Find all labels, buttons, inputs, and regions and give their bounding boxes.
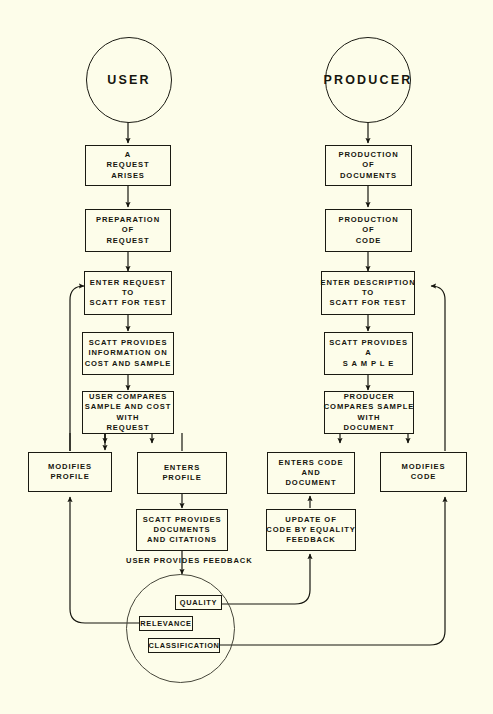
node-line: DOCUMENT [285, 478, 336, 488]
node-line: ARISES [111, 171, 145, 181]
node-line: SAMPLE AND COST [85, 402, 172, 412]
node-line: PRODUCTION [338, 150, 398, 160]
node-line: CODE [356, 236, 382, 246]
node-line: A [365, 348, 371, 358]
actor-user-label: USER [107, 73, 151, 87]
node-line: WITH [117, 413, 140, 423]
node-modifies-code[interactable]: MODIFIES CODE [380, 452, 467, 492]
node-line: OF [362, 225, 374, 235]
node-line: COST AND SAMPLE [85, 359, 172, 369]
node-line: PREPARATION [96, 215, 160, 225]
node-line: MODIFIES [48, 462, 92, 472]
node-line: TO [362, 288, 374, 298]
node-enters-profile[interactable]: ENTERS PROFILE [137, 452, 227, 494]
node-line: A [125, 150, 131, 160]
node-line: REQUEST [106, 423, 149, 433]
node-line: DOCUMENTS [153, 525, 210, 535]
feedback-item-relevance[interactable]: RELEVANCE [139, 616, 193, 631]
node-line: FEEDBACK [286, 535, 335, 545]
node-line: REQUEST [106, 160, 149, 170]
actor-producer: PRODUCER [325, 37, 411, 123]
node-line: DOCUMENT [343, 423, 394, 433]
node-line: INFORMATION ON [88, 348, 167, 358]
actor-user: USER [86, 37, 172, 123]
actor-producer-label: PRODUCER [323, 73, 412, 87]
node-line: ENTER REQUEST [90, 278, 166, 288]
node-line: OF [362, 160, 374, 170]
node-line: PROFILE [162, 473, 201, 483]
node-line: COMPARES SAMPLE [324, 402, 415, 412]
node-enters-code-and-document[interactable]: ENTERS CODE AND DOCUMENT [267, 452, 355, 494]
node-production-of-code[interactable]: PRODUCTION OF CODE [325, 209, 412, 252]
node-line: CODE [411, 472, 437, 482]
node-user-compares[interactable]: USER COMPARES SAMPLE AND COST WITH REQUE… [82, 391, 174, 434]
connector-layer [0, 0, 493, 714]
node-line: AND [301, 468, 320, 478]
node-line: UPDATE OF [285, 515, 336, 525]
node-line: REQUEST [106, 236, 149, 246]
node-line: TO [122, 288, 134, 298]
node-line: PRODUCER [344, 392, 395, 402]
node-producer-compares[interactable]: PRODUCER COMPARES SAMPLE WITH DOCUMENT [324, 391, 414, 434]
node-line: SCATT FOR TEST [329, 298, 406, 308]
node-scatt-provides-sample[interactable]: SCATT PROVIDES A S A M P L E [324, 332, 413, 375]
node-line: DOCUMENTS [340, 171, 397, 181]
node-request-arises[interactable]: A REQUEST ARISES [85, 145, 171, 186]
node-line: SCATT FOR TEST [89, 298, 166, 308]
feedback-caption: USER PROVIDES FEEDBACK [126, 556, 253, 565]
node-line: MODIFIES [402, 462, 446, 472]
node-line: PROFILE [50, 472, 89, 482]
node-line: USER COMPARES [89, 392, 167, 402]
node-line: CODE BY EQUALITY [266, 525, 355, 535]
node-line: SCATT PROVIDES [329, 338, 408, 348]
node-line: AND CITATIONS [147, 535, 217, 545]
node-scatt-provides-documents[interactable]: SCATT PROVIDES DOCUMENTS AND CITATIONS [136, 509, 228, 551]
node-preparation-of-request[interactable]: PREPARATION OF REQUEST [85, 209, 171, 252]
node-enter-description[interactable]: ENTER DESCRIPTION TO SCATT FOR TEST [321, 271, 415, 315]
feedback-item-classification[interactable]: CLASSIFICATION [148, 638, 220, 653]
node-line: S A M P L E [343, 359, 394, 369]
node-update-of-code[interactable]: UPDATE OF CODE BY EQUALITY FEEDBACK [266, 509, 356, 551]
node-line: SCATT PROVIDES [89, 338, 168, 348]
node-line: ENTER DESCRIPTION [320, 278, 415, 288]
node-line: OF [122, 225, 134, 235]
node-scatt-provides-information[interactable]: SCATT PROVIDES INFORMATION ON COST AND S… [82, 332, 174, 375]
node-enter-request[interactable]: ENTER REQUEST TO SCATT FOR TEST [84, 271, 172, 315]
feedback-item-quality[interactable]: QUALITY [175, 595, 222, 610]
feedback-item-label: RELEVANCE [140, 619, 191, 628]
node-line: ENTERS CODE [279, 458, 344, 468]
feedback-item-label: CLASSIFICATION [148, 641, 219, 650]
node-line: WITH [358, 413, 381, 423]
feedback-item-label: QUALITY [180, 598, 217, 607]
node-line: PRODUCTION [338, 215, 398, 225]
node-production-of-documents[interactable]: PRODUCTION OF DOCUMENTS [325, 145, 412, 186]
node-modifies-profile[interactable]: MODIFIES PROFILE [28, 452, 112, 492]
flowchart-canvas: USER PRODUCER A REQUEST ARISES PREPARATI… [0, 0, 493, 714]
node-line: SCATT PROVIDES [143, 515, 222, 525]
node-line: ENTERS [164, 463, 200, 473]
